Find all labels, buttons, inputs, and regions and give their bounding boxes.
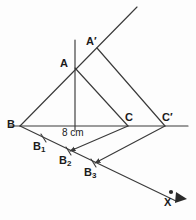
vertex-label-b3: B3 [84, 167, 96, 181]
ray-endpoint-label-x: X [164, 197, 171, 208]
side-AC [75, 68, 128, 126]
vertex-label-b2-base: B [59, 154, 67, 166]
vertex-label-b1-subscript: 1 [41, 145, 45, 154]
ray-arrowhead-icon [175, 192, 187, 203]
ray-arrowhead-group [175, 192, 187, 203]
vertex-label-b1: B1 [33, 141, 45, 155]
parallel-segment-C-prime-to-B3 [95, 126, 165, 163]
vertex-label-c: C [125, 112, 133, 123]
vertex-label-a-prime: A′ [86, 36, 97, 47]
vertex-label-b: B [7, 119, 15, 130]
point-marker-x-icon [169, 190, 173, 194]
geometry-figure: B A C A′ C′ B1 B2 B3 X 8 cm [0, 0, 196, 220]
vertex-label-b1-base: B [33, 140, 41, 152]
measurement-label-8cm: 8 cm [62, 128, 84, 138]
vertex-label-b2-subscript: 2 [67, 159, 71, 168]
construction-drawing [0, 0, 196, 220]
vertex-label-b3-subscript: 3 [92, 171, 96, 180]
vertex-label-b2: B2 [59, 155, 71, 169]
vertex-label-b3-base: B [84, 166, 92, 178]
vertex-label-c-prime: C′ [162, 112, 173, 123]
vertex-label-a: A [60, 58, 68, 69]
point-markers [169, 190, 173, 194]
side-BA-extended-to-A-prime [20, 7, 137, 126]
